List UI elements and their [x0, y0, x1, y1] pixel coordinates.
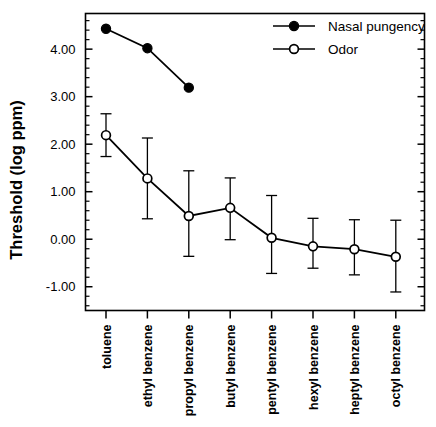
legend-marker-open-circle	[290, 45, 299, 54]
data-point-open-circle	[309, 242, 318, 251]
data-point-open-circle	[267, 233, 276, 242]
y-tick-label: 3.00	[50, 89, 75, 104]
chart-figure: Threshold (log ppm) 4.003.002.001.000.00…	[0, 0, 436, 427]
x-tick-label: propyl benzene	[182, 324, 196, 416]
y-tick-label: 1.00	[50, 184, 75, 199]
legend-marker-filled-circle	[289, 21, 298, 30]
x-tick-label: hexyl benzene	[307, 324, 321, 409]
x-tick-label: octyl benzene	[389, 324, 403, 407]
y-tick-label: 0.00	[50, 232, 75, 247]
series-odor	[101, 114, 402, 292]
data-point-open-circle	[102, 131, 111, 140]
data-point-open-circle	[226, 203, 235, 212]
data-point-filled-circle	[184, 83, 193, 92]
series-polyline	[106, 29, 189, 88]
legend-item: Odor	[273, 42, 359, 57]
chart-legend: Nasal pungencyOdor	[273, 19, 425, 57]
data-point-filled-circle	[143, 44, 152, 53]
legend-label: Odor	[328, 42, 359, 57]
y-axis-title-text: Threshold (log ppm)	[7, 100, 25, 259]
y-tick-label: 4.00	[50, 42, 75, 57]
x-axis-tick-labels: tolueneethyl benzenepropyl benzenebutyl …	[100, 324, 404, 416]
data-point-open-circle	[350, 245, 359, 254]
x-tick-label: pentyl benzene	[265, 324, 279, 414]
data-series-layer	[101, 24, 402, 292]
data-point-open-circle	[143, 174, 152, 183]
x-tick-label: ethyl benzene	[141, 324, 155, 407]
y-tick-label: -1.00	[46, 279, 76, 294]
y-axis-title: Threshold (log ppm)	[7, 100, 25, 259]
data-point-filled-circle	[101, 24, 110, 33]
legend-label: Nasal pungency	[328, 19, 425, 34]
x-tick-label: heptyl benzene	[348, 324, 362, 414]
series-polyline	[106, 135, 396, 257]
series-nasal-pungency	[101, 24, 193, 92]
threshold-line-chart: Threshold (log ppm) 4.003.002.001.000.00…	[0, 0, 436, 427]
x-tick-label: toluene	[100, 324, 114, 368]
y-tick-label: 2.00	[50, 137, 75, 152]
x-axis-ticks	[106, 311, 396, 319]
data-point-open-circle	[184, 212, 193, 221]
x-tick-label: butyl benzene	[224, 324, 238, 407]
plot-frame	[86, 14, 425, 311]
data-point-open-circle	[391, 252, 400, 261]
y-axis-ticks: 4.003.002.001.000.00-1.00	[46, 21, 425, 306]
legend-item: Nasal pungency	[273, 19, 425, 34]
